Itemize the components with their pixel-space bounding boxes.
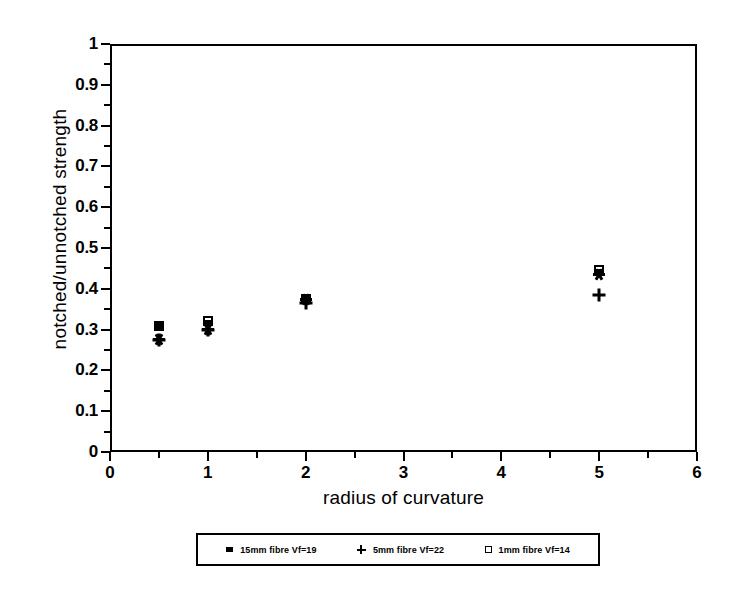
x-axis-minor-tick xyxy=(256,452,258,458)
y-axis-tick xyxy=(101,369,110,371)
y-axis-minor-tick xyxy=(104,308,110,310)
data-point-open-square xyxy=(154,321,164,331)
data-point-plus xyxy=(593,288,606,301)
y-axis-tick xyxy=(101,410,110,412)
x-axis-tick-label: 0 xyxy=(90,464,130,481)
legend-entry-label: 15mm fibre Vf=19 xyxy=(240,545,316,555)
y-axis-tick xyxy=(101,125,110,127)
y-axis-minor-tick xyxy=(104,186,110,188)
x-axis-tick xyxy=(696,452,698,461)
x-axis-tick-label: 4 xyxy=(481,464,521,481)
y-axis-tick xyxy=(101,43,110,45)
y-axis-tick xyxy=(101,288,110,290)
x-axis-tick xyxy=(109,452,111,461)
y-axis-tick xyxy=(101,206,110,208)
x-axis-minor-tick xyxy=(549,452,551,458)
y-axis-tick-label: 0 xyxy=(38,443,98,460)
y-axis-minor-tick xyxy=(104,349,110,351)
x-axis-minor-tick xyxy=(354,452,356,458)
legend-entry: 15mm fibre Vf=19 xyxy=(226,545,316,555)
y-axis-minor-tick xyxy=(104,390,110,392)
legend-marker-plus-icon xyxy=(357,545,366,554)
y-axis-tick xyxy=(101,84,110,86)
x-axis-tick-label: 3 xyxy=(384,464,424,481)
x-axis-tick xyxy=(403,452,405,461)
data-point-asterisk xyxy=(300,293,312,305)
legend-entry: 5mm fibre Vf=22 xyxy=(357,545,444,555)
legend-entry-label: 1mm fibre Vf=14 xyxy=(499,545,570,555)
x-axis-tick xyxy=(500,452,502,461)
y-axis-minor-tick xyxy=(104,145,110,147)
legend-marker-open-square-icon xyxy=(485,546,492,553)
legend-marker-filled-square-icon xyxy=(226,547,233,552)
data-point-asterisk xyxy=(202,324,214,336)
y-axis-minor-tick xyxy=(104,63,110,65)
y-axis-minor-tick xyxy=(104,431,110,433)
y-axis-tick xyxy=(101,329,110,331)
y-axis-tick xyxy=(101,247,110,249)
x-axis-tick xyxy=(598,452,600,461)
y-axis-minor-tick xyxy=(104,227,110,229)
x-axis-minor-tick xyxy=(158,452,160,458)
y-axis-minor-tick xyxy=(104,104,110,106)
x-axis-minor-tick xyxy=(647,452,649,458)
plot-area xyxy=(110,44,697,452)
y-axis-minor-tick xyxy=(104,267,110,269)
y-axis-title: notched/unnotched strength xyxy=(49,25,71,433)
x-axis-tick-label: 1 xyxy=(188,464,228,481)
x-axis-tick-label: 2 xyxy=(286,464,326,481)
chart-legend: 15mm fibre Vf=195mm fibre Vf=221mm fibre… xyxy=(196,533,600,566)
x-axis-title: radius of curvature xyxy=(110,487,697,509)
y-axis-tick xyxy=(101,165,110,167)
data-point-asterisk xyxy=(593,269,605,281)
x-axis-tick xyxy=(207,452,209,461)
x-axis-tick xyxy=(305,452,307,461)
data-point-asterisk xyxy=(153,334,165,346)
scatter-chart-figure: 00.10.20.30.40.50.60.70.80.91 0123456 ra… xyxy=(0,0,739,599)
legend-entry: 1mm fibre Vf=14 xyxy=(485,545,570,555)
x-axis-tick-label: 5 xyxy=(579,464,619,481)
legend-entry-label: 5mm fibre Vf=22 xyxy=(373,545,444,555)
x-axis-tick-label: 6 xyxy=(677,464,717,481)
x-axis-minor-tick xyxy=(451,452,453,458)
